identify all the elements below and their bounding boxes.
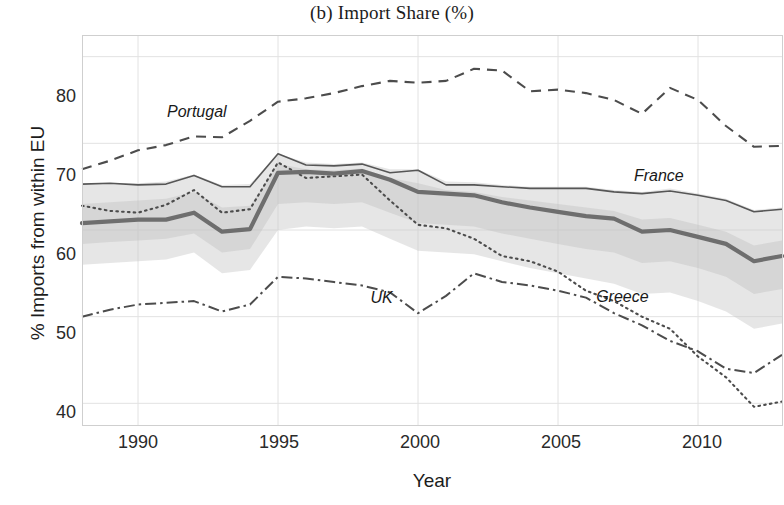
y-tick-70: 70 — [36, 165, 76, 186]
plot-canvas — [0, 0, 784, 505]
x-axis-label: Year — [82, 470, 782, 492]
series-label-greece: Greece — [596, 288, 648, 306]
chart-title: (b) Import Share (%) — [0, 2, 784, 24]
y-tick-50: 50 — [36, 323, 76, 344]
series-label-france: France — [634, 167, 684, 185]
y-tick-80: 80 — [36, 86, 76, 107]
chart-figure: (b) Import Share (%) % Imports from with… — [0, 0, 784, 505]
x-tick-1990: 1990 — [118, 432, 158, 453]
x-tick-2000: 2000 — [400, 432, 440, 453]
x-tick-2010: 2010 — [682, 432, 722, 453]
y-tick-40: 40 — [36, 402, 76, 423]
y-axis-tick-labels: 80 70 60 50 40 — [28, 0, 76, 505]
y-tick-60: 60 — [36, 244, 76, 265]
x-tick-2005: 2005 — [541, 432, 581, 453]
x-tick-1995: 1995 — [259, 432, 299, 453]
series-label-portugal: Portugal — [167, 103, 227, 121]
series-label-uk: UK — [370, 289, 392, 307]
